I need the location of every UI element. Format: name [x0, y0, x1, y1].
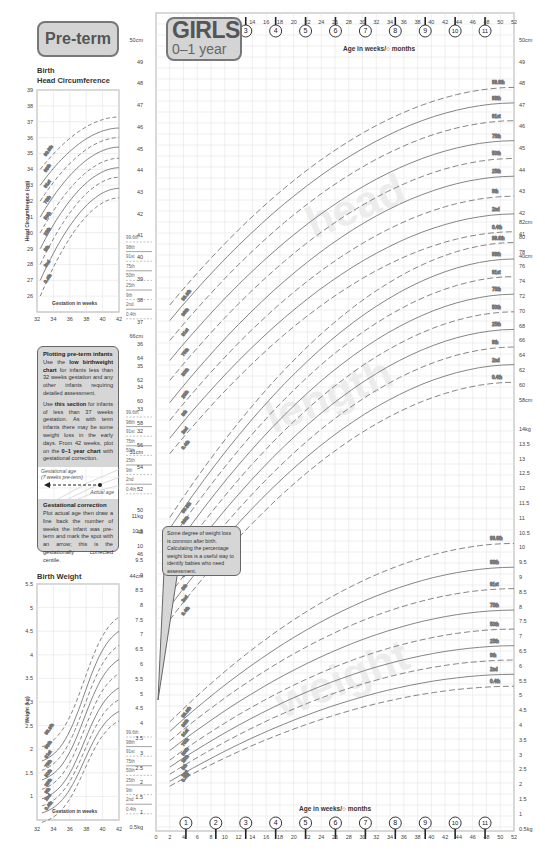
top-week-tick: 16 [260, 19, 272, 25]
svg-text:91st: 91st [492, 114, 501, 119]
svg-text:6: 6 [334, 819, 338, 826]
length-ytick-right: 80 [519, 234, 541, 240]
svg-text:5: 5 [304, 819, 308, 826]
reference-centile-label: 9th [126, 293, 132, 298]
svg-text:2: 2 [214, 819, 218, 826]
weight-ytick-right: 10 [519, 544, 541, 550]
top-week-tick: 44 [453, 19, 465, 25]
top-week-tick: 20 [288, 19, 300, 25]
svg-text:3: 3 [244, 27, 248, 34]
reference-centile-label: 91st [126, 429, 135, 434]
top-week-tick: 36 [398, 19, 410, 25]
svg-text:5: 5 [304, 27, 308, 34]
svg-text:75th: 75th [492, 287, 501, 292]
svg-text:98th: 98th [492, 252, 501, 257]
top-week-tick: 38 [412, 19, 424, 25]
head-ytick: 46 [121, 124, 143, 130]
reference-centile-label: 99.6th [126, 410, 139, 415]
top-week-tick: 46 [467, 19, 479, 25]
head-ytick: 48 [121, 80, 143, 86]
weight-ytick: 6 [121, 661, 143, 667]
bottom-week-tick: 24 [315, 834, 327, 840]
length-ytick: 46 [121, 551, 143, 557]
bottom-week-tick: 0 [150, 834, 162, 840]
reference-centile-label: 50th [126, 448, 135, 453]
reference-centile-label: 91st [126, 254, 135, 259]
svg-text:9: 9 [423, 27, 427, 34]
weight-ytick: 7.5 [121, 617, 143, 623]
length-ytick-right: 64 [519, 352, 541, 358]
weight-ytick: 9 [121, 572, 143, 578]
weight-ytick-right: 4 [519, 722, 541, 728]
svg-text:50th: 50th [492, 151, 501, 156]
svg-text:99.6th: 99.6th [490, 536, 503, 541]
length-ytick-right: 78 [519, 249, 541, 255]
svg-text:75th: 75th [490, 603, 499, 608]
head-ytick-right: 48 [519, 80, 541, 86]
callout-pointer [156, 570, 216, 700]
length-ytick: 60 [121, 398, 143, 404]
head-ytick-right: 42 [519, 210, 541, 216]
svg-text:7: 7 [363, 819, 367, 826]
head-ytick-right: 50cm [519, 37, 541, 43]
weight-ytick-right: 12.5 [519, 470, 541, 476]
svg-text:3: 3 [244, 819, 248, 826]
reference-centile-label: 0.4th [126, 312, 136, 317]
top-week-tick: 40 [425, 19, 437, 25]
reference-centile-label: 98th [126, 740, 135, 745]
length-ytick-right: 70 [519, 308, 541, 314]
length-ytick-right: 66 [519, 337, 541, 343]
svg-text:7: 7 [363, 27, 367, 34]
bottom-week-tick: 22 [301, 834, 313, 840]
svg-text:0.4th: 0.4th [490, 679, 501, 684]
weight-ytick-right: 2 [519, 781, 541, 787]
weight-ytick: 10.5 [121, 528, 143, 534]
head-ytick-right: 43 [519, 188, 541, 194]
top-week-tick: 26 [329, 19, 341, 25]
head-ytick: 44 [121, 167, 143, 173]
weight-ytick-right: 1.5 [519, 796, 541, 802]
head-ytick-right: 47 [519, 102, 541, 108]
head-ytick: 36 [121, 341, 143, 347]
length-ytick-right: 62 [519, 367, 541, 373]
weight-ytick-right: 14kg [519, 426, 541, 432]
length-ytick-right: 58cm [519, 397, 541, 403]
bottom-week-tick: 42 [439, 834, 451, 840]
bottom-week-tick: 26 [329, 834, 341, 840]
svg-text:4: 4 [274, 27, 278, 34]
head-ytick-right: 45 [519, 145, 541, 151]
bottom-week-tick: 52 [508, 834, 520, 840]
head-ytick: 34 [121, 384, 143, 390]
bottom-week-tick: 38 [412, 834, 424, 840]
head-ytick-right: 49 [519, 59, 541, 65]
svg-text:9th: 9th [492, 189, 499, 194]
weight-ytick: 5 [121, 691, 143, 697]
weight-ytick: 4.5 [121, 705, 143, 711]
age-axis-label-top: Age in weeks/○ months [343, 45, 415, 52]
length-ytick-right: 68 [519, 323, 541, 329]
reference-centile-label: 75th [126, 759, 135, 764]
weight-ytick-right: 5.5 [519, 678, 541, 684]
weight-ytick-right: 7.5 [519, 618, 541, 624]
weight-ytick-right: 1 [519, 811, 541, 817]
svg-text:2nd: 2nd [490, 667, 498, 672]
main-plot: head length weight 99.6th99.6th98th98th9… [0, 0, 545, 856]
head-ytick: 50cm [121, 37, 143, 43]
head-ytick: 45 [121, 146, 143, 152]
svg-text:6: 6 [334, 27, 338, 34]
weight-ytick-right: 3 [519, 752, 541, 758]
weight-ytick-right: 6 [519, 663, 541, 669]
weight-ytick-right: 12 [519, 485, 541, 491]
weight-ytick-right: 3.5 [519, 737, 541, 743]
weight-ytick-right: 11.5 [519, 500, 541, 506]
reference-centile-label: 9th [126, 468, 132, 473]
svg-text:8: 8 [393, 819, 397, 826]
length-ytick-right: 60 [519, 382, 541, 388]
bottom-week-tick: 18 [274, 834, 286, 840]
weight-ytick: 4 [121, 720, 143, 726]
reference-centile-label: 99.6th [126, 730, 139, 735]
weight-ytick-right: 6.5 [519, 648, 541, 654]
length-ytick: 66cm [121, 333, 143, 339]
weight-ytick: 8.5 [121, 587, 143, 593]
reference-centile-label: 0.4th [126, 487, 136, 492]
